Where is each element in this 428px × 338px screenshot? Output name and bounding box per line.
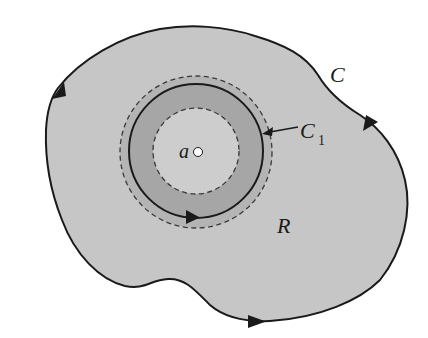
point-a-label: a [179,140,189,162]
c-direction-arrow-left-icon [52,82,66,99]
contour-diagram: a C 1 C R [0,0,428,338]
curve-c-label: C [330,62,345,87]
region-r-label: R [276,213,291,238]
curve-c1-label: C [300,118,315,143]
point-a-marker [194,148,203,157]
curve-c1-subscript: 1 [318,133,325,148]
